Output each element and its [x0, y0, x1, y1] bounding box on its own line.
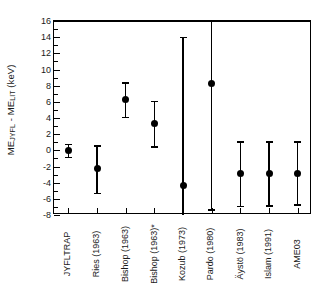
x-tick-mark — [126, 208, 127, 213]
x-tick-mark — [298, 208, 299, 213]
error-bar-cap-lower — [294, 204, 301, 205]
error-bar — [211, 21, 212, 209]
x-tick-mark — [97, 208, 98, 213]
x-axis-category-label: Islam (1991) — [261, 219, 275, 297]
plot-area: 1614121086420-2-4-6-8 — [53, 20, 311, 214]
error-bar-cap-upper — [65, 144, 72, 145]
error-bar-cap-upper — [151, 101, 158, 102]
x-axis-category-label: Äystö (1983) — [232, 219, 246, 297]
y-tick-label: -8 — [43, 211, 51, 220]
y-tick-mark-minor — [54, 94, 58, 95]
y-tick-mark — [54, 167, 60, 168]
y-tick-mark-minor — [54, 110, 58, 111]
x-axis-category-label: JYFLTRAP — [60, 219, 74, 297]
x-axis-category-text: Pardo (1980) — [206, 228, 216, 281]
y-tick-mark-minor — [54, 29, 58, 30]
y-tick-mark — [54, 86, 60, 87]
y-tick-mark-minor — [54, 191, 58, 192]
y-tick-label: 10 — [41, 65, 51, 74]
error-bar-cap-lower — [122, 117, 129, 118]
y-axis-label-me1: ME — [4, 141, 15, 155]
data-marker[interactable] — [237, 170, 244, 177]
data-marker[interactable] — [180, 182, 187, 189]
error-bar-cap-upper — [266, 141, 273, 142]
y-tick-mark-minor — [54, 158, 58, 159]
y-tick-mark — [54, 215, 60, 216]
y-tick-mark — [54, 53, 60, 54]
error-bar-cap-upper — [94, 145, 101, 146]
x-axis-category-label: Bishop (1963) — [118, 219, 132, 297]
y-tick-mark — [54, 118, 60, 119]
x-axis-category-label: Kozub (1973) — [175, 219, 189, 297]
y-tick-mark — [54, 102, 60, 103]
x-axis-category-label: Pardo (1980) — [204, 219, 218, 297]
y-tick-label: 14 — [41, 33, 51, 42]
data-marker[interactable] — [122, 96, 129, 103]
y-tick-label: 8 — [46, 81, 51, 90]
data-marker[interactable] — [294, 170, 301, 177]
zero-reference-line — [54, 21, 310, 22]
y-tick-label: 16 — [41, 17, 51, 26]
error-bar-cap-upper — [294, 141, 301, 142]
x-tick-mark — [154, 208, 155, 213]
y-tick-mark-minor — [54, 142, 58, 143]
y-axis-label-sub-lit: LIT — [9, 91, 16, 101]
x-axis-category-text: Kozub (1973) — [177, 227, 187, 281]
y-tick-mark-minor — [54, 45, 58, 46]
figure-panel: MEJYFL - MELIT (keV) 1614121086420-2-4-6… — [0, 0, 335, 297]
error-bar-cap-upper — [122, 82, 129, 83]
data-marker[interactable] — [151, 120, 158, 127]
y-tick-mark — [54, 37, 60, 38]
x-tick-mark — [68, 208, 69, 213]
error-bar-cap-lower — [94, 193, 101, 194]
x-axis-category-text: Bishop (1963) — [120, 226, 130, 282]
y-tick-mark — [54, 134, 60, 135]
error-bar-cap-lower — [266, 205, 273, 206]
y-tick-mark-minor — [54, 126, 58, 127]
error-bar-cap-upper — [180, 37, 187, 38]
y-tick-mark — [54, 199, 60, 200]
y-tick-mark-minor — [54, 207, 58, 208]
y-tick-label: 0 — [46, 146, 51, 155]
y-tick-mark-minor — [54, 175, 58, 176]
y-tick-mark — [54, 21, 60, 22]
error-bar-cap-lower — [151, 146, 158, 147]
y-tick-mark-minor — [54, 78, 58, 79]
y-axis-label: MEJYFL - MELIT (keV) — [0, 0, 20, 220]
x-axis-category-text: Äystö (1983) — [234, 228, 244, 279]
y-axis-label-sub-jyfl: JYFL — [9, 124, 16, 141]
error-bar-cap-lower — [237, 206, 244, 207]
y-axis-label-me2: ME — [4, 101, 15, 115]
x-tick-mark — [240, 208, 241, 213]
x-axis-category-text: Bishop (1963)* — [148, 224, 158, 284]
error-bar-cap-upper — [237, 141, 244, 142]
y-tick-mark — [54, 183, 60, 184]
y-tick-label: 4 — [46, 114, 51, 123]
x-axis-category-text: AME03 — [292, 239, 302, 269]
y-tick-label: -6 — [43, 194, 51, 203]
data-marker[interactable] — [65, 147, 72, 154]
x-axis-category-labels: JYFLTRAPRies (1963)Bishop (1963)Bishop (… — [53, 219, 311, 297]
error-bar-cap-lower — [65, 157, 72, 158]
x-axis-category-label: Bishop (1963)* — [146, 219, 160, 297]
x-tick-mark — [269, 208, 270, 213]
x-axis-category-text: Islam (1991) — [263, 229, 273, 279]
y-tick-label: 6 — [46, 97, 51, 106]
y-tick-label: -2 — [43, 162, 51, 171]
data-marker[interactable] — [208, 80, 215, 87]
y-tick-label: 2 — [46, 130, 51, 139]
x-axis-category-label: AME03 — [290, 219, 304, 297]
y-axis-label-dash: - — [4, 115, 15, 124]
data-marker[interactable] — [266, 170, 273, 177]
data-marker[interactable] — [94, 165, 101, 172]
y-tick-mark — [54, 70, 60, 71]
y-tick-label: 12 — [41, 49, 51, 58]
x-axis-category-text: Ries (1963) — [91, 231, 101, 278]
x-axis-category-text: JYFLTRAP — [62, 232, 72, 276]
error-bar-cap-lower — [208, 209, 215, 210]
y-tick-label: -4 — [43, 178, 51, 187]
y-tick-mark-minor — [54, 61, 58, 62]
x-axis-category-label: Ries (1963) — [89, 219, 103, 297]
y-axis-label-units: (keV) — [4, 65, 15, 91]
y-tick-mark — [54, 150, 60, 151]
